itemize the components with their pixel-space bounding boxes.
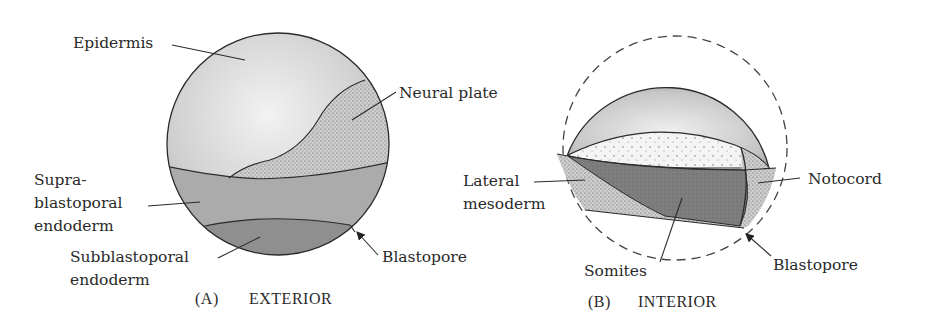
label-subblastoporal-line2: endoderm (70, 271, 150, 290)
label-notocord: Notocord (808, 170, 882, 189)
label-supra-line3: endoderm (34, 217, 114, 236)
label-supra-line1: Supra- (34, 171, 86, 190)
label-subblastoporal-line1: Subblastoporal (70, 248, 189, 267)
caption-a-title: EXTERIOR (249, 290, 332, 308)
label-epidermis: Epidermis (73, 34, 153, 53)
label-lateral-line2: mesoderm (463, 195, 545, 214)
panel-a-exterior-sphere (160, 30, 400, 300)
label-lateral-line1: Lateral (463, 172, 520, 191)
caption-a-letter: (A) (195, 290, 219, 308)
caption-b-letter: (B) (588, 293, 611, 311)
label-blastopore-b: Blastopore (773, 256, 858, 275)
label-somites: Somites (584, 262, 647, 281)
label-supra-line2: blastoporal (34, 194, 123, 213)
label-neural-plate: Neural plate (399, 84, 498, 103)
caption-b-title: INTERIOR (638, 293, 717, 311)
label-blastopore-a: Blastopore (382, 248, 467, 267)
